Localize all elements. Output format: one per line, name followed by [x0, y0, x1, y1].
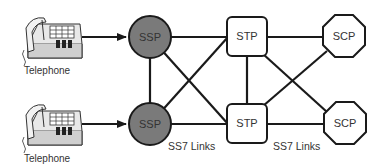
- scp-node-bottom: SCP: [324, 102, 366, 144]
- scp-label: SCP: [333, 30, 356, 42]
- ss7-network-diagram: Telephone Telephone SSP SSP STP STP SCP …: [0, 0, 385, 167]
- ssp-node-top: SSP: [129, 16, 171, 58]
- stp-label: STP: [236, 30, 257, 42]
- scp-node-top: SCP: [323, 15, 365, 57]
- telephone-label-top: Telephone: [24, 65, 71, 76]
- telephone-icon: [23, 18, 83, 66]
- ssp-node-bottom: SSP: [129, 103, 171, 145]
- scp-label: SCP: [334, 117, 357, 129]
- telephone-icon: [23, 105, 83, 153]
- ss7-links-label-left: SS7 Links: [168, 140, 215, 152]
- stp-node-bottom: STP: [227, 104, 267, 143]
- ss7-links-label-right: SS7 Links: [273, 140, 320, 152]
- ssp-label: SSP: [139, 118, 161, 130]
- stp-label: STP: [236, 117, 257, 129]
- telephone-label-bottom: Telephone: [24, 153, 71, 164]
- ssp-label: SSP: [139, 31, 161, 43]
- stp-node-top: STP: [227, 17, 267, 56]
